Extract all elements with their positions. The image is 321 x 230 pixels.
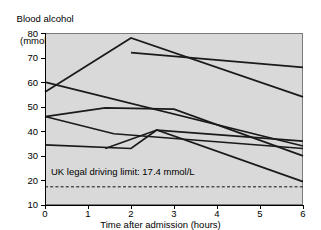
series-line-patient-4 — [45, 117, 303, 149]
chart-figure: Blood alcohol (mmol/L) 80 70 60 50 40 30… — [0, 0, 321, 230]
series-group — [45, 38, 303, 182]
chart-lines-layer — [0, 0, 321, 230]
series-line-patient-1 — [45, 38, 303, 97]
series-line-patient-3 — [131, 53, 303, 68]
